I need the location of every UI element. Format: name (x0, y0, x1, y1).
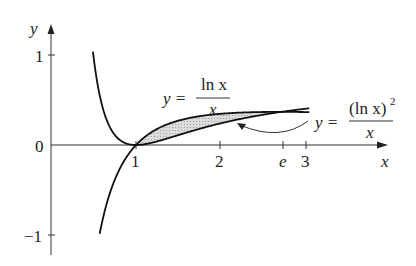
label-2-denominator: x (365, 123, 374, 142)
label-ln-x-squared-over-x: y = (ln x) 2 x (313, 95, 396, 142)
x-tick-2: 2 (215, 152, 224, 171)
x-tick-e: e (279, 152, 287, 171)
label-1-denominator: x (208, 100, 217, 119)
y-tick-1: 1 (35, 47, 44, 66)
x-axis (51, 141, 388, 149)
label-2-lhs: y = (313, 113, 338, 132)
y-tick-0: 0 (35, 137, 44, 156)
annotation-arrow (240, 121, 308, 133)
y-axis-label: y (28, 19, 38, 38)
y-tick-neg1: −1 (24, 227, 42, 246)
y-axis-arrow-icon (48, 24, 55, 34)
label-2-numerator: (ln x) (349, 99, 386, 118)
x-tick-3: 3 (301, 152, 310, 171)
x-axis-label: x (380, 152, 389, 171)
label-1-numerator: ln x (201, 75, 227, 94)
x-tick-1: 1 (131, 152, 140, 171)
figure: y 1 0 −1 1 2 e 3 x y = ln x x y = (ln x)… (0, 0, 416, 266)
plot-canvas: y 1 0 −1 1 2 e 3 x y = ln x x y = (ln x)… (0, 0, 416, 266)
label-1-lhs: y = (161, 89, 186, 108)
x-axis-arrow-icon (377, 142, 388, 149)
curve-ln-x-over-x (100, 112, 310, 234)
label-ln-x-over-x: y = ln x x (161, 75, 230, 119)
y-axis (48, 24, 56, 255)
label-2-superscript: 2 (390, 95, 396, 107)
